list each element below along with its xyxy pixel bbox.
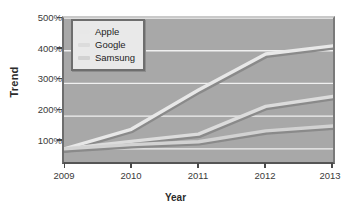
legend-swatch-samsung	[78, 56, 90, 60]
y-tick-label: 500%	[18, 12, 62, 23]
legend-item-apple[interactable]: Apple	[78, 26, 135, 38]
x-tick-label: 2011	[188, 170, 208, 181]
legend-item-samsung[interactable]: Samsung	[78, 52, 135, 64]
x-tick-mark	[64, 163, 66, 168]
x-tick-label: 2012	[254, 170, 275, 181]
y-tick-label: 100%	[18, 134, 62, 145]
y-tick-label: 200%	[18, 104, 62, 115]
legend-label-samsung: Samsung	[95, 53, 135, 63]
line-chart: Trend 500% 400% 300% 200% 100% 2009 2010…	[0, 0, 351, 213]
x-tick-mark	[264, 163, 266, 168]
legend-swatch-google	[78, 43, 90, 47]
x-tick-mark	[130, 163, 132, 168]
legend-swatch-apple	[78, 30, 90, 34]
x-tick-label: 2010	[120, 170, 141, 181]
legend-item-google[interactable]: Google	[78, 39, 135, 51]
x-tick-mark	[331, 163, 333, 168]
x-axis-title: Year	[0, 192, 351, 203]
chart-legend: Apple Google Samsung	[71, 19, 145, 71]
y-tick-label: 300%	[18, 73, 62, 84]
x-tick-label: 2009	[53, 170, 74, 181]
x-tick-mark	[197, 163, 199, 168]
legend-label-google: Google	[95, 40, 126, 50]
legend-label-apple: Apple	[95, 27, 119, 37]
x-tick-label: 2013	[319, 170, 340, 181]
y-tick-label: 400%	[18, 42, 62, 53]
